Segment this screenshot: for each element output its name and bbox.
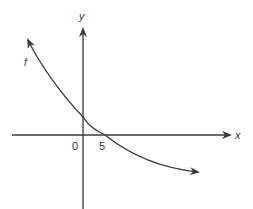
curve-label-f: f <box>24 57 28 68</box>
curve-f-right <box>105 135 198 172</box>
graph-canvas: y x 0 5 f <box>0 0 253 209</box>
tick-label-5: 5 <box>99 140 105 152</box>
curve-f <box>28 40 105 135</box>
x-axis-label: x <box>234 129 241 141</box>
origin-label: 0 <box>72 140 78 152</box>
y-axis-label: y <box>78 10 86 22</box>
